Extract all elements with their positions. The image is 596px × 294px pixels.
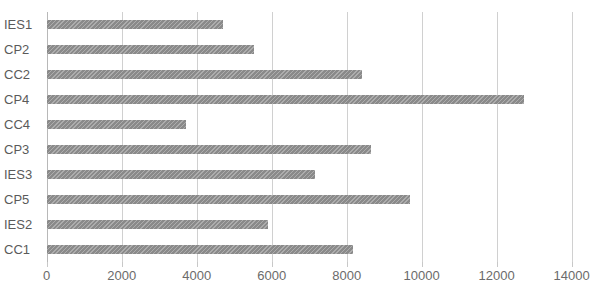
tick-mark-14000: [572, 262, 573, 267]
bar-CC1: [47, 245, 354, 254]
bar-IES3: [47, 170, 315, 179]
x-tick-label-12000: 12000: [479, 269, 515, 282]
x-tick-label-6000: 6000: [257, 269, 286, 282]
gridline-14000: [572, 12, 573, 262]
x-tick-label-14000: 14000: [554, 269, 590, 282]
x-axis-tick-labels: 02000400060008000100001200014000: [0, 269, 596, 291]
bar-chart: IES1CP2CC2CP4CC4CP3IES3CP5IES2CC1 020004…: [0, 0, 596, 294]
bar-row: [47, 12, 223, 37]
bar-series: [47, 12, 572, 262]
bar-row: [47, 37, 254, 62]
bar-CP4: [47, 95, 525, 104]
tick-mark-0: [47, 262, 48, 267]
x-tick-label-0: 0: [43, 269, 50, 282]
bar-row: [47, 187, 410, 212]
category-label-CP2: CP2: [4, 43, 29, 56]
category-label-CP5: CP5: [4, 193, 29, 206]
bar-row: [47, 212, 269, 237]
tick-mark-10000: [422, 262, 423, 267]
category-label-IES3: IES3: [4, 168, 32, 181]
category-label-CP4: CP4: [4, 93, 29, 106]
category-label-CP3: CP3: [4, 143, 29, 156]
x-tick-label-4000: 4000: [182, 269, 211, 282]
tick-mark-4000: [197, 262, 198, 267]
tick-mark-2000: [122, 262, 123, 267]
bar-row: [47, 162, 315, 187]
bar-CP3: [47, 145, 371, 154]
tick-mark-8000: [347, 262, 348, 267]
bar-row: [47, 112, 187, 137]
bar-CP2: [47, 45, 254, 54]
category-label-IES2: IES2: [4, 218, 32, 231]
x-tick-label-8000: 8000: [332, 269, 361, 282]
tick-mark-6000: [272, 262, 273, 267]
bar-IES1: [47, 20, 223, 29]
bar-IES2: [47, 220, 269, 229]
bar-row: [47, 137, 371, 162]
bar-CC4: [47, 120, 187, 129]
category-label-CC2: CC2: [4, 68, 30, 81]
bar-row: [47, 62, 363, 87]
bar-row: [47, 237, 354, 262]
category-axis: IES1CP2CC2CP4CC4CP3IES3CP5IES2CC1: [4, 12, 44, 262]
category-label-CC4: CC4: [4, 118, 30, 131]
x-tick-label-2000: 2000: [107, 269, 136, 282]
category-label-CC1: CC1: [4, 243, 30, 256]
bar-CP5: [47, 195, 410, 204]
plot-area: [47, 12, 572, 262]
bar-row: [47, 87, 525, 112]
x-tick-label-10000: 10000: [404, 269, 440, 282]
bar-CC2: [47, 70, 363, 79]
category-label-IES1: IES1: [4, 18, 32, 31]
tick-mark-12000: [497, 262, 498, 267]
